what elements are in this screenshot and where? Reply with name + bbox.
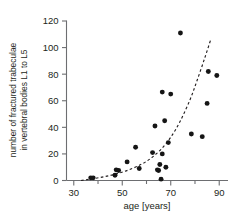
x-tick-label: 90 <box>214 187 225 198</box>
data-point <box>156 168 161 173</box>
data-point <box>116 168 121 173</box>
data-point <box>159 177 164 182</box>
data-point <box>160 90 165 95</box>
data-point <box>91 175 96 180</box>
data-point <box>150 150 155 155</box>
y-tick-label: 80 <box>48 69 59 80</box>
x-axis: 30507090 <box>67 181 229 199</box>
data-point <box>205 101 210 106</box>
data-point <box>125 159 130 164</box>
data-point <box>162 118 167 123</box>
x-tick-label: 50 <box>117 187 128 198</box>
scatter-plot: 020406080100120 30507090 age [years] num… <box>0 0 236 223</box>
y-axis: 020406080100120 <box>43 15 67 186</box>
trend-line <box>81 40 211 181</box>
data-point <box>166 140 171 145</box>
y-tick-label: 40 <box>48 122 59 133</box>
x-tick-label: 30 <box>68 187 79 198</box>
data-point <box>189 132 194 137</box>
data-point <box>214 73 219 78</box>
y-tick-label: 100 <box>43 42 59 53</box>
data-point <box>178 31 183 36</box>
data-point <box>133 145 138 150</box>
data-point <box>157 162 162 167</box>
data-point <box>163 165 168 170</box>
x-tick-label: 70 <box>165 187 176 198</box>
data-points <box>88 31 219 182</box>
y-axis-title-line1: number of fractured trabeculae <box>8 42 18 157</box>
y-axis-title-line2: in vertebral bodies L1 to L5 <box>19 49 29 150</box>
data-point <box>206 69 211 74</box>
data-point <box>137 166 142 171</box>
x-axis-title: age [years] <box>124 200 171 211</box>
data-point <box>160 151 165 156</box>
y-tick-label: 0 <box>53 175 58 186</box>
y-axis-tick-labels: 020406080100120 <box>43 15 59 186</box>
figure-container: 020406080100120 30507090 age [years] num… <box>0 0 236 223</box>
y-tick-label: 20 <box>48 148 59 159</box>
y-tick-label: 60 <box>48 95 59 106</box>
data-point <box>113 173 118 178</box>
data-point <box>168 92 173 97</box>
data-point <box>200 134 205 139</box>
x-axis-tick-labels: 30507090 <box>68 187 224 198</box>
y-axis-ticks <box>62 21 67 181</box>
data-point <box>153 124 158 129</box>
y-tick-label: 120 <box>43 15 59 26</box>
